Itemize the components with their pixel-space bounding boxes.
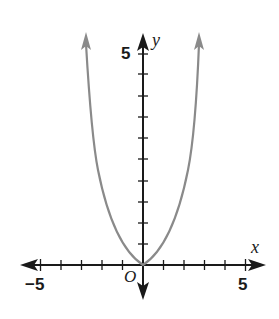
y-axis	[137, 33, 149, 300]
x-max-label: 5	[238, 275, 247, 295]
x-min-label: −5	[25, 275, 44, 295]
y-max-label: 5	[121, 44, 130, 64]
x-axis-label: x	[251, 237, 259, 258]
coordinate-plane	[0, 0, 279, 319]
y-axis-label: y	[152, 30, 160, 51]
origin-label: O	[124, 267, 136, 287]
